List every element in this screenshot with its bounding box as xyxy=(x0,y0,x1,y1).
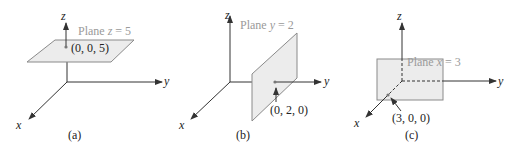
x-axis-label: x xyxy=(353,116,360,130)
y-axis-label: y xyxy=(323,74,330,88)
point-label: (3, 0, 0) xyxy=(392,111,430,125)
point-label: (0, 0, 5) xyxy=(71,41,109,55)
point-marker xyxy=(64,45,67,48)
x-axis xyxy=(29,82,67,119)
y-axis-label: y xyxy=(497,74,504,88)
plane-label: Plane x = 3 xyxy=(407,55,461,69)
plane-label: Plane z = 5 xyxy=(78,24,131,38)
z-axis-label: z xyxy=(396,9,402,23)
x-axis-label: x xyxy=(178,118,185,132)
x-axis xyxy=(191,82,230,119)
z-axis-label: z xyxy=(60,9,66,23)
panel-b: z y x Plane y = 2 (0, 2, 0) (b) xyxy=(178,8,330,142)
planes-figure: z y x Plane z = 5 (0, 0, 5) (a) z y x Pl… xyxy=(0,0,519,154)
caption-c: (c) xyxy=(405,128,418,142)
plane-label: Plane y = 2 xyxy=(240,18,294,32)
y-axis-label: y xyxy=(163,74,170,88)
x-axis-label: x xyxy=(15,118,22,132)
z-axis-label: z xyxy=(224,8,230,22)
panel-c: z y x Plane x = 3 (3, 0, 0) (c) xyxy=(353,9,504,142)
point-marker xyxy=(386,93,389,96)
point-marker xyxy=(273,80,276,83)
caption-b: (b) xyxy=(236,128,250,142)
point-label: (0, 2, 0) xyxy=(270,103,308,117)
panel-a: z y x Plane z = 5 (0, 0, 5) (a) xyxy=(15,9,170,142)
caption-a: (a) xyxy=(68,128,81,142)
